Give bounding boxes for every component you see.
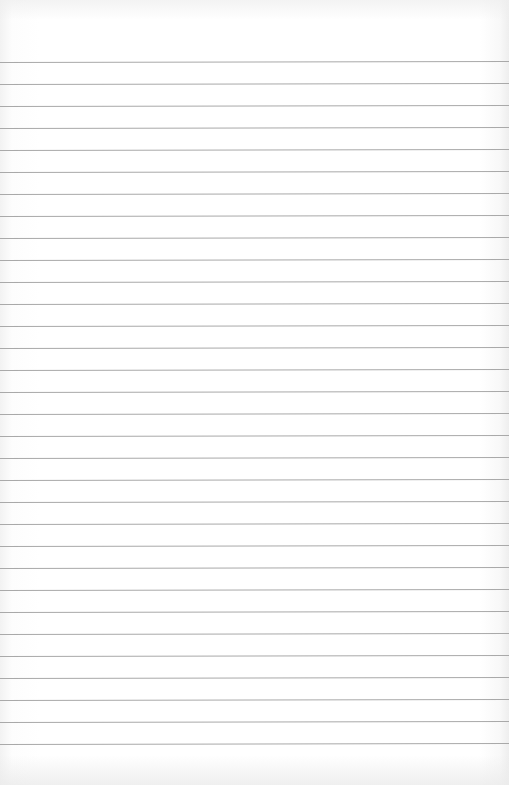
ruled-line bbox=[0, 171, 509, 173]
ruled-line bbox=[0, 105, 509, 107]
ruled-line bbox=[0, 149, 509, 151]
ruled-line bbox=[0, 237, 509, 239]
ruled-line bbox=[0, 303, 509, 305]
ruled-line bbox=[0, 721, 509, 723]
ruled-line bbox=[0, 457, 509, 459]
ruled-line bbox=[0, 479, 509, 481]
ruled-line bbox=[0, 677, 509, 679]
lined-paper-sheet bbox=[0, 0, 509, 785]
ruled-line bbox=[0, 369, 509, 371]
ruled-line bbox=[0, 215, 509, 217]
ruled-line bbox=[0, 193, 509, 195]
ruled-line bbox=[0, 83, 509, 85]
ruled-line bbox=[0, 545, 509, 547]
ruled-line bbox=[0, 391, 509, 393]
ruled-line bbox=[0, 589, 509, 591]
ruled-line bbox=[0, 633, 509, 635]
ruled-line bbox=[0, 567, 509, 569]
ruled-line bbox=[0, 259, 509, 261]
ruled-line bbox=[0, 61, 509, 63]
ruled-line bbox=[0, 743, 509, 745]
ruled-line bbox=[0, 347, 509, 349]
ruled-line bbox=[0, 523, 509, 525]
ruled-line bbox=[0, 611, 509, 613]
ruled-line bbox=[0, 281, 509, 283]
ruled-line bbox=[0, 325, 509, 327]
ruled-line bbox=[0, 699, 509, 701]
ruled-line bbox=[0, 413, 509, 415]
ruled-line bbox=[0, 127, 509, 129]
ruled-line bbox=[0, 501, 509, 503]
ruled-line bbox=[0, 435, 509, 437]
ruled-line bbox=[0, 655, 509, 657]
